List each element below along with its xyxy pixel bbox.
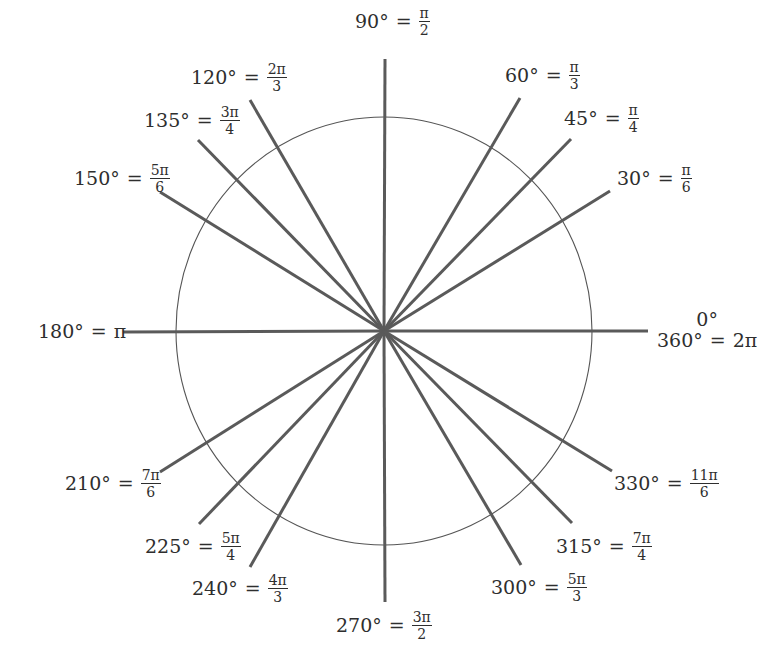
fraction-numerator: π (419, 6, 430, 22)
radian-fraction: π 3 (569, 60, 580, 91)
degree-value: 45° (564, 109, 598, 128)
equals-sign: = (710, 331, 726, 350)
fraction-denominator: 3 (570, 76, 579, 91)
degree-value: 240° (192, 579, 238, 598)
fraction-numerator: π (681, 163, 692, 179)
equals-sign: = (609, 537, 625, 556)
equals-sign: = (198, 537, 214, 556)
label-45: 45° = π 4 (564, 103, 639, 134)
fraction-denominator: 6 (146, 484, 155, 499)
spoke-45 (384, 139, 571, 331)
label-120: 120° = 2π 3 (191, 62, 287, 93)
degree-value: 180° (38, 322, 84, 341)
degree-value: 225° (145, 537, 191, 556)
equals-sign: = (396, 12, 412, 31)
radian-fraction: 3π 4 (220, 105, 240, 136)
degree-value: 60° (505, 66, 539, 85)
spoke-150 (160, 192, 384, 331)
label-330: 330° = 11π 6 (614, 468, 719, 499)
spoke-60 (384, 98, 520, 331)
radian-fraction: 4π 3 (268, 573, 288, 604)
degree-value: 270° (336, 616, 382, 635)
equals-sign: = (667, 474, 683, 493)
equals-sign: = (546, 66, 562, 85)
fraction-numerator: 4π (268, 573, 288, 589)
label-180: 180° = π (38, 322, 126, 341)
label-60: 60° = π 3 (505, 60, 580, 91)
fraction-numerator: 11π (690, 468, 719, 484)
fraction-denominator: 3 (572, 588, 581, 603)
label-135: 135° = 3π 4 (144, 105, 240, 136)
radian-value: 2π (733, 331, 758, 350)
spoke-90 (384, 59, 385, 331)
degree-value: 300° (491, 578, 537, 597)
fraction-denominator: 6 (682, 179, 691, 194)
fraction-numerator: 5π (567, 572, 587, 588)
equals-sign: = (245, 579, 261, 598)
fraction-numerator: 7π (141, 468, 161, 484)
spoke-180 (123, 331, 384, 332)
fraction-numerator: π (628, 103, 639, 119)
radian-fraction: 5π 4 (221, 531, 241, 562)
fraction-numerator: 5π (221, 531, 241, 547)
angle-spokes (123, 59, 648, 602)
spoke-330 (384, 331, 612, 471)
radian-fraction: 7π 6 (141, 468, 161, 499)
radian-fraction: π 4 (628, 103, 639, 134)
radian-value: π (114, 322, 127, 341)
degree-value: 315° (556, 537, 602, 556)
radian-fraction: π 2 (419, 6, 430, 37)
equals-sign: = (118, 474, 134, 493)
equals-sign: = (605, 109, 621, 128)
radian-fraction: 7π 4 (632, 531, 652, 562)
equals-sign: = (244, 68, 260, 87)
fraction-denominator: 2 (420, 22, 429, 37)
radian-fraction: 3π 2 (412, 610, 432, 641)
fraction-denominator: 3 (272, 78, 281, 93)
degree-value: 210° (65, 474, 111, 493)
fraction-numerator: 5π (150, 163, 170, 179)
degree-value: 30° (617, 169, 651, 188)
equals-sign: = (91, 322, 107, 341)
label-90: 90° = π 2 (355, 6, 430, 37)
label-240: 240° = 4π 3 (192, 573, 288, 604)
fraction-numerator: 2π (267, 62, 287, 78)
fraction-numerator: π (569, 60, 580, 76)
fraction-denominator: 6 (155, 179, 164, 194)
fraction-numerator: 3π (412, 610, 432, 626)
fraction-denominator: 6 (700, 484, 709, 499)
label-30: 30° = π 6 (617, 163, 692, 194)
spoke-270 (384, 331, 385, 602)
fraction-denominator: 4 (637, 547, 646, 562)
degree-360-row: 360° = 2π (657, 331, 757, 350)
fraction-denominator: 4 (226, 547, 235, 562)
degree-value: 90° (355, 12, 389, 31)
label-150: 150° = 5π 6 (74, 163, 170, 194)
degree-value: 330° (614, 474, 660, 493)
spoke-30 (384, 191, 610, 331)
degree-value: 135° (144, 111, 190, 130)
label-270: 270° = 3π 2 (336, 610, 432, 641)
degree-zero: 0° (696, 310, 718, 329)
radian-fraction: 5π 6 (150, 163, 170, 194)
label-0-360: 0° 360° = 2π (657, 310, 757, 350)
degree-value: 360° (657, 331, 703, 350)
label-210: 210° = 7π 6 (65, 468, 161, 499)
fraction-denominator: 2 (417, 626, 426, 641)
fraction-denominator: 4 (225, 121, 234, 136)
equals-sign: = (544, 578, 560, 597)
label-225: 225° = 5π 4 (145, 531, 241, 562)
fraction-denominator: 3 (273, 589, 282, 604)
radian-fraction: 5π 3 (567, 572, 587, 603)
label-315: 315° = 7π 4 (556, 531, 652, 562)
fraction-numerator: 7π (632, 531, 652, 547)
equals-sign: = (658, 169, 674, 188)
radian-fraction: 2π 3 (267, 62, 287, 93)
equals-sign: = (197, 111, 213, 130)
equals-sign: = (127, 169, 143, 188)
equals-sign: = (389, 616, 405, 635)
radian-fraction: π 6 (681, 163, 692, 194)
spoke-210 (160, 331, 384, 472)
degree-value: 120° (191, 68, 237, 87)
degree-value: 150° (74, 169, 120, 188)
